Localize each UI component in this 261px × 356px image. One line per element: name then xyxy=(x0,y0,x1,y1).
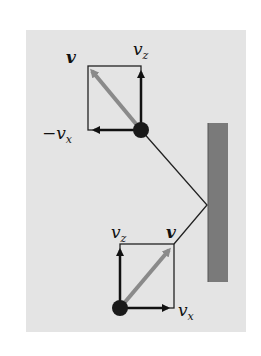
top-neg-vx-label: −vx xyxy=(42,123,72,143)
bottom-v-label: v xyxy=(166,222,176,242)
top-vz-label: vz xyxy=(133,39,148,59)
velocity-arrow xyxy=(120,250,169,308)
bottom-velocity-decomposition xyxy=(112,244,174,316)
ball-bottom xyxy=(112,300,128,316)
velocity-arrow xyxy=(92,71,141,130)
bottom-vz-label: vz xyxy=(111,222,126,242)
wall xyxy=(208,123,228,282)
top-v-label: v xyxy=(66,47,76,67)
bounce-diagram xyxy=(0,0,261,356)
bottom-vx-label: vx xyxy=(178,300,194,320)
top-velocity-decomposition xyxy=(88,66,149,138)
ball-top xyxy=(133,122,149,138)
